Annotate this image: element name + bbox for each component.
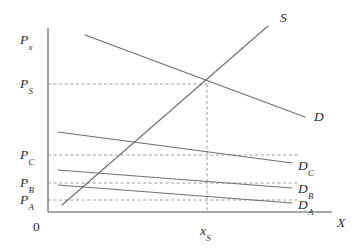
price-label-pa: PA [20,193,34,210]
demand-curve-dc [58,132,292,163]
price-label-pc-sub: C [29,157,35,167]
y-axis-label-base: P [20,32,28,47]
curve-label-da-base: D [298,197,308,212]
y-axis-label: Px [20,33,32,50]
quantity-label-xs-sub: S [206,233,210,243]
origin-label: 0 [33,220,40,234]
quantity-label-xs: xS [200,224,210,241]
curve-label-dc: DC [298,159,314,176]
curve-label-s: S [280,11,287,25]
curve-label-d-base: D [314,109,324,124]
price-label-pb: PB [20,176,34,193]
price-label-pa-base: P [20,192,28,207]
x-axis-label: X [337,216,345,230]
price-label-ps-sub: S [29,86,33,96]
price-label-pb-base: P [20,175,28,190]
curves [58,26,305,205]
curve-label-dc-base: D [298,158,308,173]
curve-label-da-sub: A [308,207,313,217]
price-label-ps: PS [20,77,33,94]
guide-lines [48,84,300,212]
curve-label-db-base: D [298,181,308,196]
price-label-ps-base: P [20,76,28,91]
curve-label-d: D [314,110,324,124]
y-axis-label-sub: x [29,42,33,52]
demand-curve-d [85,35,305,117]
curve-label-da: DA [298,198,313,215]
curve-label-dc-sub: C [308,168,314,178]
supply-demand-figure: Px PS PC PB PA 0 xS X S D DC DB DA [0,0,364,250]
demand-curve-db [58,170,292,188]
price-label-pa-sub: A [29,202,34,212]
axes [48,28,332,212]
price-label-pc: PC [20,148,34,165]
curve-label-s-base: S [280,10,287,25]
price-label-pc-base: P [20,147,28,162]
